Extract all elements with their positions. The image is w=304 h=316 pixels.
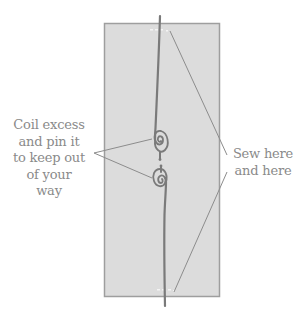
label-line: of your	[4, 167, 94, 184]
coil-instruction-label: Coil excess and pin it to keep out of yo…	[4, 117, 94, 200]
label-line: Sew here	[228, 146, 298, 163]
upper-pin-head-icon	[159, 158, 162, 161]
label-line: way	[4, 183, 94, 200]
label-line: and pin it	[4, 134, 94, 151]
sew-instruction-label: Sew here and here	[228, 146, 298, 179]
fabric-panel	[105, 24, 220, 297]
label-line: and here	[228, 163, 298, 180]
label-line: to keep out	[4, 150, 94, 167]
label-line: Coil excess	[4, 117, 94, 134]
